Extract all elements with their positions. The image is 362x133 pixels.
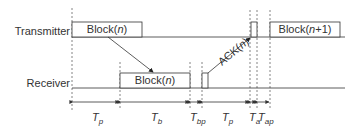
interval-label-tb: Tb <box>151 111 163 126</box>
tx-ack-receive-slot <box>251 22 257 37</box>
receiver-label: Receiver <box>27 77 71 89</box>
transmitter-label: Transmitter <box>15 25 71 37</box>
interval-label-tap: Tap <box>258 111 274 126</box>
rx-ack-send-slot <box>202 73 208 88</box>
stop-and-wait-timing-diagram: Transmitter Block(n) Block(n+1) Receiver… <box>0 0 362 133</box>
rx-block-n-label: Block(n) <box>135 74 175 86</box>
ack-label: ACK(n) <box>216 35 251 67</box>
interval-label-tbp: Tbp <box>190 111 206 126</box>
interval-label-tp2: Tp <box>222 111 234 126</box>
block-propagation-arrow <box>108 37 153 72</box>
tx-block-n-plus-1-label: Block(n+1) <box>279 23 332 35</box>
tx-block-n-label: Block(n) <box>87 23 127 35</box>
interval-label-tp1: Tp <box>92 111 104 126</box>
